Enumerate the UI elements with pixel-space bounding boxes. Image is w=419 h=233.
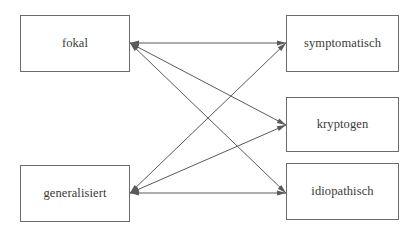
node-box-kryptogen[interactable]: kryptogen (286, 97, 399, 152)
node-label-symptomatisch: symptomatisch (304, 37, 381, 50)
node-box-generalisiert[interactable]: generalisiert (20, 165, 130, 222)
edge-line-generalisiert-kryptogen[interactable] (130, 125, 286, 193)
arrowhead-end-fokal-kryptogen (277, 119, 286, 125)
node-label-kryptogen: kryptogen (317, 118, 369, 131)
node-label-fokal: fokal (62, 37, 88, 50)
arrowhead-end-generalisiert-kryptogen (277, 125, 286, 131)
diagram-canvas: fokal generalisiert symptomatisch krypto… (0, 0, 419, 233)
edges-group (130, 40, 286, 195)
node-label-generalisiert: generalisiert (43, 187, 106, 200)
edge-line-fokal-kryptogen[interactable] (130, 43, 286, 125)
node-box-fokal[interactable]: fokal (20, 15, 130, 72)
node-box-symptomatisch[interactable]: symptomatisch (286, 15, 399, 72)
node-label-idiopathisch: idiopathisch (311, 185, 373, 198)
node-box-idiopathisch[interactable]: idiopathisch (286, 163, 399, 220)
